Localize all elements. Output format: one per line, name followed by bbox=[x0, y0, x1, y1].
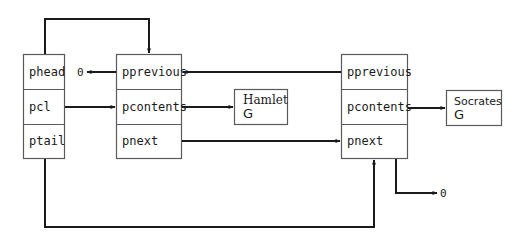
edge-node2-pnext-to-null bbox=[396, 159, 437, 193]
node1-field-pnext: pnext bbox=[122, 134, 158, 148]
socrates-g-label: G bbox=[454, 107, 464, 122]
node1-field-pcontents: pcontents bbox=[122, 100, 187, 114]
field-pcl: pcl bbox=[29, 100, 51, 114]
contents-box-hamlet: Hamlet G bbox=[235, 90, 288, 125]
contents-box-socrates: Socrates G bbox=[447, 91, 503, 126]
field-ptail: ptail bbox=[29, 134, 65, 148]
node2-field-pprevious: pprevious bbox=[347, 65, 412, 79]
edge-phead-to-node1 bbox=[45, 19, 149, 54]
list-header: phead pcl ptail bbox=[24, 55, 66, 159]
edge-ptail-to-node2 bbox=[45, 159, 374, 227]
field-phead: phead bbox=[29, 65, 65, 79]
node2-field-pnext: pnext bbox=[347, 134, 383, 148]
null-marker-left: 0 bbox=[77, 66, 84, 79]
null-marker-right: 0 bbox=[440, 187, 447, 200]
node1-field-pprevious: pprevious bbox=[122, 65, 187, 79]
hamlet-g-label: G bbox=[243, 106, 253, 121]
node-1: pprevious pcontents pnext bbox=[117, 55, 188, 159]
node2-field-pcontents: pcontents bbox=[347, 100, 412, 114]
node-2: pprevious pcontents pnext bbox=[342, 55, 413, 159]
hamlet-label: Hamlet bbox=[243, 93, 288, 107]
linked-list-diagram: phead pcl ptail pprevious pcontents pnex… bbox=[0, 0, 527, 237]
